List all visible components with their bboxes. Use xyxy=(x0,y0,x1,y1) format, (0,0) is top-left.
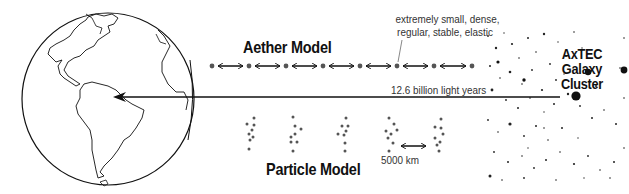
note-leader-line xyxy=(398,40,402,62)
aether-note: extremely small, dense, regular, stable,… xyxy=(396,13,495,39)
cluster-title-line1: AxTEC xyxy=(552,46,612,61)
aether-node xyxy=(210,64,215,69)
scale-label: 5000 km xyxy=(381,154,419,166)
distance-arrow xyxy=(113,92,560,102)
particle-model-title: Particle Model xyxy=(266,160,360,180)
aether-node xyxy=(247,64,252,69)
distance-label: 12.6 billion light years xyxy=(391,84,486,96)
aether-node xyxy=(432,64,437,69)
aether-node xyxy=(284,64,289,69)
aether-node xyxy=(470,64,475,69)
cluster-title-line3: Cluster xyxy=(552,76,612,91)
particle-clusters xyxy=(246,116,445,153)
aether-model-title: Aether Model xyxy=(243,38,331,58)
aether-node xyxy=(358,64,363,69)
aether-note-line2: regular, stable, elastic xyxy=(396,26,495,39)
aether-chain xyxy=(210,64,475,69)
cluster-title-line2: Galaxy xyxy=(552,61,612,76)
aether-node xyxy=(395,64,400,69)
aether-node xyxy=(321,64,326,69)
aether-note-line1: extremely small, dense, xyxy=(396,13,495,26)
galaxy-cluster-title: AxTEC Galaxy Cluster xyxy=(552,46,612,91)
